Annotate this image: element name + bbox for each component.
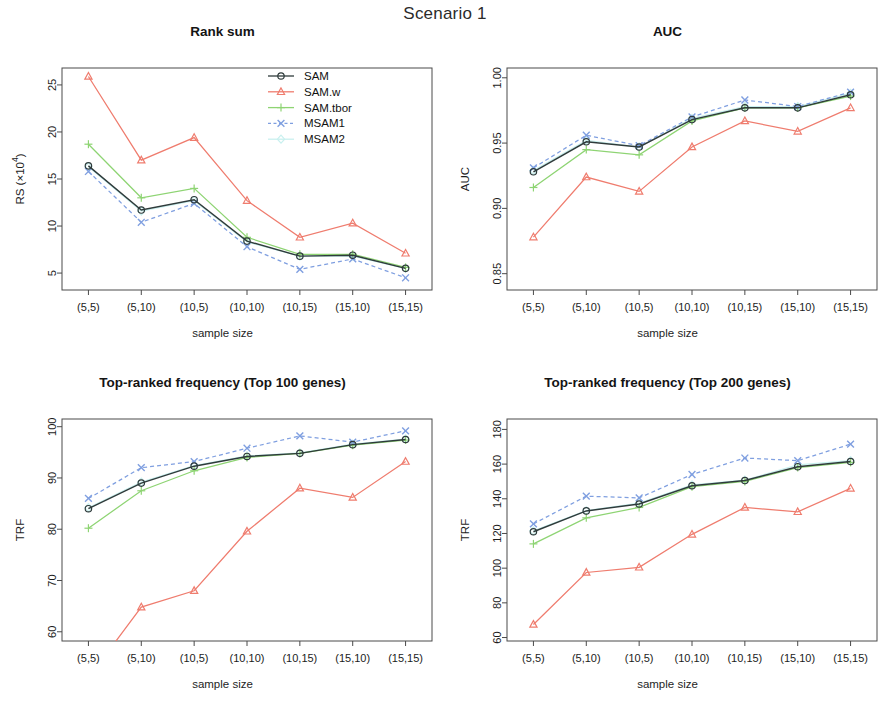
x-tick-label: (15,10) [335,652,370,664]
legend-item-msam1: MSAM1 [268,117,345,129]
y-tick-label: 80 [46,523,58,535]
x-tick-label: (10,5) [625,652,654,664]
y-tick-label: 25 [46,79,58,91]
xaxis-title-rank-sum: sample size [0,327,445,339]
x-tick-label: (10,5) [180,652,209,664]
figure-root: Scenario 1 Rank sum 510152025RS (×104)(5… [0,0,890,702]
series-msam1 [85,427,409,501]
y-tick-label: 5 [46,270,58,276]
x-tick-label: (5,10) [572,301,601,313]
x-tick-label: (5,5) [522,652,545,664]
x-tick-label: (10,10) [230,301,265,313]
series-line [533,96,850,187]
x-tick-label: (10,15) [727,301,762,313]
y-tick-label: 180 [491,420,503,438]
x-tick-label: (5,5) [522,301,545,313]
data-point [847,104,854,111]
y-tick-label: 20 [46,126,58,138]
series-msam2 [530,457,854,535]
data-point [402,427,409,434]
y-tick-label: 70 [46,574,58,586]
x-tick-label: (15,15) [388,652,423,664]
plot-box [62,68,432,290]
data-point [85,73,92,80]
data-point [402,458,409,465]
data-point [138,219,145,226]
x-tick-label: (15,15) [388,301,423,313]
panel-trf-top100: Top-ranked frequency (Top 100 genes) 607… [0,351,445,702]
panel-auc: AUC 0.850.900.951.00AUC(5,5)(5,10)(10,5)… [445,0,890,351]
data-point [582,146,590,154]
y-tick-label: 100 [46,418,58,436]
series-line [88,440,405,509]
x-tick-label: (10,15) [282,652,317,664]
y-tick-label: 0.95 [491,132,503,153]
x-tick-label: (15,15) [833,652,868,664]
panel-rank-sum: Rank sum 510152025RS (×104)(5,5)(5,10)(1… [0,0,445,351]
series-layer [84,73,409,282]
y-tick-label: 100 [491,559,503,577]
series-msam2 [85,435,409,512]
series-line [533,92,850,168]
series-msam2 [530,89,854,174]
data-point [847,484,854,491]
data-point [84,524,92,532]
x-tick-label: (15,10) [780,652,815,664]
panel-trf-top200: Top-ranked frequency (Top 200 genes) 608… [445,351,890,702]
data-point [741,455,748,462]
xaxis-title-trf-top200: sample size [445,678,890,690]
y-tick-label: 1.00 [491,67,503,88]
x-tick-label: (5,10) [127,652,156,664]
series-layer [529,441,854,627]
series-line [533,108,850,237]
series-sam-w [85,73,409,256]
plot-trf-top200: 6080100120140160180TRF(5,5)(5,10)(10,5)(… [445,351,890,702]
x-tick-label: (10,10) [675,652,710,664]
series-line [533,461,850,531]
legend-label: MSAM2 [304,133,345,145]
y-tick-label: 90 [46,472,58,484]
y-tick-label: 0.90 [491,198,503,219]
data-point [847,441,854,448]
y-axis-title: AUC [459,167,471,191]
legend-marker [278,120,285,127]
data-point [635,151,643,159]
data-point [583,493,590,500]
x-tick-label: (15,10) [335,301,370,313]
data-point [402,274,409,281]
series-line [88,431,405,499]
x-tick-label: (10,10) [230,652,265,664]
data-point [689,471,696,478]
y-tick-label: 10 [46,220,58,232]
series-line [88,439,405,508]
series-layer [529,89,854,240]
x-tick-label: (5,10) [127,301,156,313]
series-sam-w [85,458,409,681]
x-tick-label: (5,5) [77,301,100,313]
x-tick-label: (15,15) [833,301,868,313]
data-point [529,183,537,191]
legend-marker [277,104,285,112]
plot-rank-sum: 510152025RS (×104)(5,5)(5,10)(10,5)(10,1… [0,0,445,351]
x-tick-label: (10,5) [180,301,209,313]
data-point [85,495,92,502]
legend-item-sam-w: SAM.w [268,86,341,98]
x-tick-label: (10,15) [282,301,317,313]
series-sam-tbor [84,140,409,271]
x-tick-label: (10,15) [727,652,762,664]
y-tick-label: 0.85 [491,263,503,284]
legend-item-msam2: MSAM2 [268,133,345,145]
y-tick-label: 120 [491,524,503,542]
series-line [88,171,405,277]
series-sam-tbor [84,436,409,532]
y-tick-label: 160 [491,455,503,473]
data-point [296,266,303,273]
plot-trf-top100: 60708090100TRF(5,5)(5,10)(10,5)(10,10)(1… [0,351,445,702]
y-tick-label: 140 [491,490,503,508]
legend-label: SAM.w [304,86,341,98]
series-msam1 [85,168,409,281]
legend-item-sam-tbor: SAM.tbor [268,102,352,114]
x-tick-label: (10,5) [625,301,654,313]
legend-label: MSAM1 [304,117,345,129]
legend-label: SAM.tbor [304,102,352,114]
